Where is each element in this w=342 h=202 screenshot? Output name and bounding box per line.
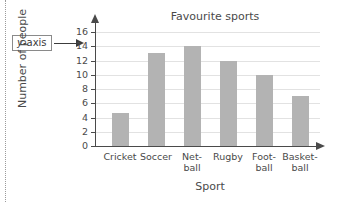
gridline xyxy=(96,75,320,76)
chart-title: Favourite sports xyxy=(130,10,300,23)
bar xyxy=(220,61,237,147)
y-axis-tick-label: 0 xyxy=(66,141,88,151)
y-axis-tick-label: 16 xyxy=(66,27,88,37)
y-axis-tick xyxy=(91,32,96,33)
gridline xyxy=(96,103,320,104)
gridline xyxy=(96,46,320,47)
bar xyxy=(184,46,201,146)
y-axis-tick xyxy=(91,46,96,47)
page-edge-dotted-rule xyxy=(5,0,6,202)
bar xyxy=(292,96,309,146)
y-axis-title: Number of people xyxy=(16,0,29,119)
bar xyxy=(256,75,273,146)
bar xyxy=(112,113,129,146)
y-axis-tick-label: 4 xyxy=(66,113,88,123)
y-axis-tick-label: 10 xyxy=(66,70,88,80)
bar xyxy=(148,53,165,146)
gridline xyxy=(96,32,320,33)
y-axis-tick xyxy=(91,103,96,104)
y-axis-tick xyxy=(91,89,96,90)
chart-page: y-axis Favourite sports 0246810121416 Cr… xyxy=(0,0,342,202)
x-axis-title: Sport xyxy=(150,180,270,193)
y-axis-tick-label: 2 xyxy=(66,127,88,137)
gridline xyxy=(96,89,320,90)
x-axis-category-label: Basket- ball xyxy=(277,151,323,173)
gridline xyxy=(96,118,320,119)
y-axis-tick xyxy=(91,146,96,147)
y-axis-tick-label: 12 xyxy=(66,56,88,66)
y-axis-tick xyxy=(91,132,96,133)
y-axis-tick-label: 8 xyxy=(66,84,88,94)
x-axis-line xyxy=(96,146,318,147)
y-axis-tick xyxy=(91,118,96,119)
y-axis-tick-label: 14 xyxy=(66,41,88,51)
gridline xyxy=(96,132,320,133)
y-axis-tick xyxy=(91,61,96,62)
gridline xyxy=(96,61,320,62)
y-axis-arrow-icon xyxy=(91,14,99,23)
plot-area xyxy=(96,32,320,146)
y-axis-tick-label: 6 xyxy=(66,98,88,108)
y-axis-tick xyxy=(91,75,96,76)
